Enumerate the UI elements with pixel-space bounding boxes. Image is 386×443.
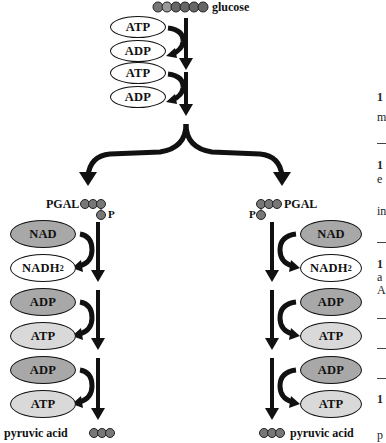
glycolysis-diagram: glucose ATP ADP ATP ADP PGAL P PGAL P NA… [0, 0, 386, 443]
right-phosphate-label: P [249, 208, 256, 220]
top-adp-1: ADP [110, 40, 166, 62]
left-atp-2: ATP [10, 390, 76, 418]
side-rule [377, 318, 386, 319]
branch-arrow [79, 124, 291, 186]
left-pgal-label: PGAL [46, 197, 79, 212]
right-chain-arrows [265, 222, 300, 420]
right-adp-2: ADP [300, 356, 362, 384]
side-rule [377, 143, 386, 144]
left-adp-1: ADP [10, 288, 76, 316]
right-nadh-text: NADH [310, 261, 348, 276]
right-atp-2: ATP [300, 390, 362, 418]
top-atp-1: ATP [110, 16, 166, 38]
glucose-molecule-icon [153, 2, 208, 12]
right-nad: NAD [300, 220, 362, 248]
left-pyruvic-label: pyruvic acid [4, 426, 68, 441]
side-fragment: 1 [377, 158, 383, 173]
top-adp-2: ADP [110, 86, 166, 108]
right-pgal-label: PGAL [284, 197, 317, 212]
left-atp-1: ATP [10, 322, 76, 350]
left-chain-arrows [72, 222, 105, 420]
left-nadh2: NADH2 [10, 254, 76, 282]
side-fragment: p [377, 428, 383, 443]
right-nadh-sub: 2 [348, 264, 352, 273]
right-nadh2: NADH2 [300, 254, 362, 282]
side-fragment: 1 [377, 392, 383, 407]
left-nadh-sub: 2 [60, 264, 64, 273]
side-rule [377, 242, 386, 243]
right-atp-1: ATP [300, 322, 362, 350]
top-arrows [166, 18, 193, 116]
right-pyruvic-label: pyruvic acid [290, 426, 354, 441]
right-pgal-molecule-icon [257, 200, 282, 220]
left-pgal-molecule-icon [81, 200, 106, 220]
right-adp-1: ADP [300, 288, 362, 316]
side-fragment: in [377, 204, 386, 219]
side-fragment: m [377, 110, 386, 125]
side-fragment: e [377, 172, 382, 187]
side-rule [377, 348, 386, 349]
side-fragment: 1 [377, 90, 383, 105]
left-nadh-text: NADH [22, 261, 60, 276]
side-rule [377, 378, 386, 379]
top-atp-2: ATP [110, 62, 166, 84]
right-pyruvic-molecule-icon [260, 429, 285, 438]
side-fragment: A [377, 283, 386, 298]
left-nad: NAD [10, 220, 76, 248]
left-adp-2: ADP [10, 356, 76, 384]
left-pyruvic-molecule-icon [90, 429, 115, 438]
left-phosphate-label: P [108, 208, 115, 220]
glucose-label: glucose [212, 0, 249, 15]
